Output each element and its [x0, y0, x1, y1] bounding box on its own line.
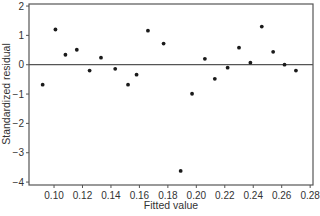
- data-points: [41, 25, 298, 173]
- data-point: [99, 56, 103, 60]
- data-point: [162, 42, 166, 46]
- y-tick-label: −2: [13, 118, 25, 129]
- y-tick-label: 1: [18, 30, 24, 41]
- data-point: [54, 28, 58, 32]
- x-tick-label: 0.26: [272, 190, 292, 201]
- data-point: [294, 69, 298, 73]
- data-point: [260, 25, 264, 29]
- y-axis-title: Standardized residual: [0, 43, 12, 145]
- residual-scatter-chart: 210−1−2−3−4 0.100.120.140.160.180.200.22…: [0, 0, 320, 216]
- y-tick-label: −3: [13, 147, 25, 158]
- data-point: [64, 53, 68, 57]
- data-point: [283, 63, 287, 67]
- data-point: [75, 48, 79, 52]
- x-tick-label: 0.24: [244, 190, 264, 201]
- data-point: [190, 92, 194, 96]
- data-point: [226, 66, 230, 70]
- x-tick-label: 0.28: [300, 190, 320, 201]
- plot-frame: [29, 4, 313, 185]
- x-tick-label: 0.10: [44, 190, 64, 201]
- data-point: [126, 83, 130, 87]
- data-point: [271, 50, 275, 54]
- y-tick-label: 2: [18, 1, 24, 12]
- data-point: [213, 77, 217, 81]
- data-point: [113, 67, 117, 71]
- y-axis-ticks: 210−1−2−3−4: [13, 1, 29, 188]
- x-tick-label: 0.12: [73, 190, 93, 201]
- data-point: [88, 69, 92, 73]
- data-point: [41, 83, 45, 87]
- data-point: [146, 29, 150, 33]
- data-point: [248, 61, 252, 65]
- data-point: [237, 46, 241, 50]
- x-axis-title: Fitted value: [144, 199, 198, 211]
- y-tick-label: −1: [13, 89, 25, 100]
- y-tick-label: −4: [13, 177, 25, 188]
- data-point: [179, 169, 183, 173]
- data-point: [135, 73, 139, 77]
- x-tick-label: 0.22: [215, 190, 235, 201]
- x-tick-label: 0.14: [101, 190, 121, 201]
- data-point: [203, 57, 207, 61]
- y-tick-label: 0: [18, 59, 24, 70]
